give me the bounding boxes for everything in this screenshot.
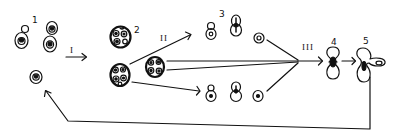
budding-cell-icon xyxy=(15,26,29,49)
budding-cell-icon xyxy=(206,23,216,40)
budding-cell-icon xyxy=(231,82,242,102)
stage-1-cells xyxy=(15,22,58,84)
stage-4-dumbbell xyxy=(327,47,339,79)
connector-line xyxy=(267,40,298,60)
connector-line xyxy=(267,63,298,91)
single-cell-icon xyxy=(253,91,263,102)
return-arrow xyxy=(45,77,371,129)
budding-cell-icon xyxy=(206,85,216,102)
transition-label-2: II xyxy=(160,34,168,43)
cluster-icon xyxy=(111,64,130,86)
transition-label-3: III xyxy=(302,43,314,52)
life-cycle-diagram xyxy=(0,0,396,137)
single-cell-icon xyxy=(254,33,264,43)
cluster-icon xyxy=(111,27,131,48)
paired-cell-icon xyxy=(44,22,58,53)
transition-label-1: I xyxy=(70,46,74,55)
arrow-4-to-5 xyxy=(342,58,356,65)
stage-3-upper xyxy=(206,15,298,60)
stage-label-1: 1 xyxy=(32,16,38,25)
stage-3-lower xyxy=(206,63,298,102)
arrow-transition-3 xyxy=(298,57,323,65)
stage-5-budding-dumbbell xyxy=(357,48,385,82)
stage-label-3: 3 xyxy=(219,10,225,19)
stage-label-4: 4 xyxy=(331,38,337,47)
stage-2-clusters xyxy=(111,27,165,87)
single-cell-icon xyxy=(30,71,42,84)
cluster-icon xyxy=(146,57,164,77)
stage-label-2: 2 xyxy=(134,26,140,35)
stage-label-5: 5 xyxy=(363,37,369,46)
budding-cell-icon xyxy=(231,15,242,36)
